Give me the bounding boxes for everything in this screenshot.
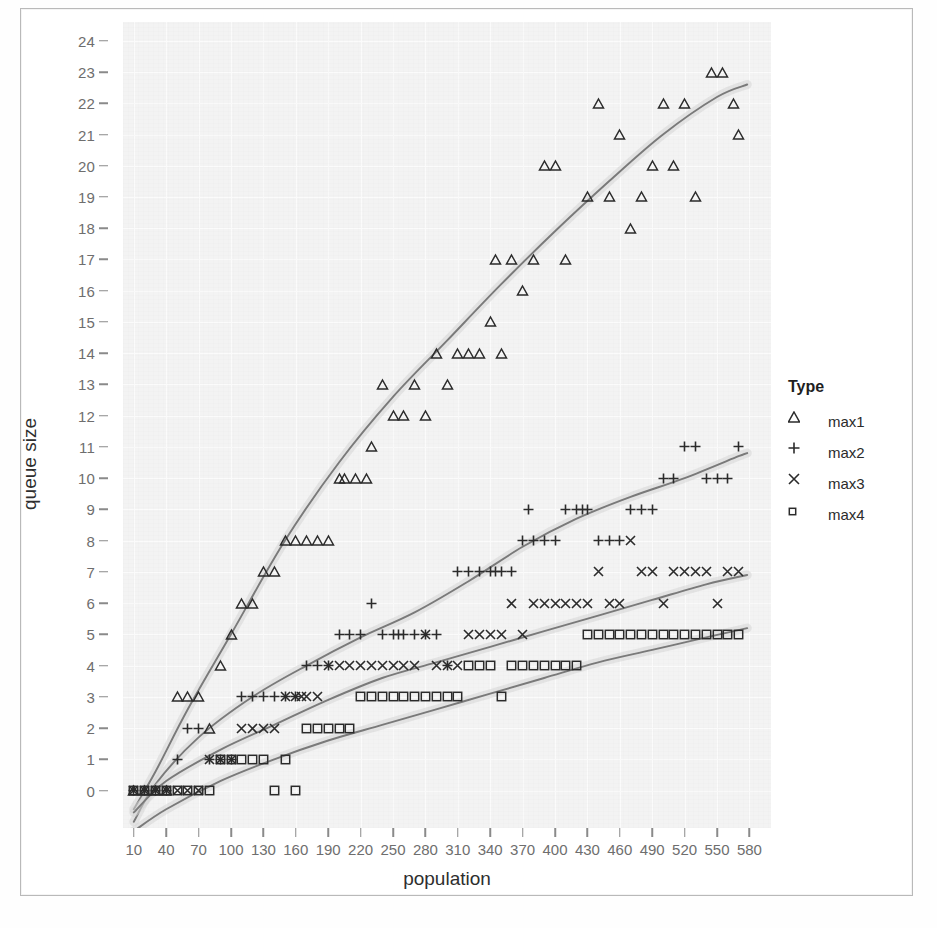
- x-tick-label: 490: [640, 841, 665, 858]
- y-tick-mark: [99, 290, 108, 292]
- y-tick-mark: [99, 134, 108, 136]
- x-tick-mark: [522, 828, 524, 837]
- y-tick-label: 14: [78, 345, 95, 362]
- y-tick-mark: [99, 727, 108, 729]
- x-tick-mark: [425, 828, 427, 837]
- legend-label: max1: [828, 413, 865, 430]
- x-tick-mark: [749, 828, 751, 837]
- y-tick-mark: [99, 477, 108, 479]
- x-tick-label: 40: [158, 841, 175, 858]
- legend-marker-plus-icon: [788, 440, 818, 466]
- x-tick-mark: [165, 828, 167, 837]
- x-tick-label: 250: [380, 841, 405, 858]
- y-tick-mark: [99, 102, 108, 104]
- legend-title: Type: [788, 378, 918, 396]
- x-tick-mark: [263, 828, 265, 837]
- legend-marker-square-icon: [788, 502, 818, 528]
- y-tick-label: 16: [78, 282, 95, 299]
- max1-trend-band: [134, 85, 747, 810]
- y-tick-label: 5: [86, 626, 95, 643]
- y-axis-title: queue size: [19, 418, 41, 510]
- x-tick-label: 160: [283, 841, 308, 858]
- legend-item-max2[interactable]: max2: [788, 437, 918, 468]
- y-tick-mark: [99, 196, 108, 198]
- y-tick-label: 1: [86, 751, 95, 768]
- y-tick-label: 12: [78, 407, 95, 424]
- x-tick-label: 430: [575, 841, 600, 858]
- x-tick-label: 70: [190, 841, 207, 858]
- x-tick-mark: [684, 828, 686, 837]
- x-tick-mark: [587, 828, 589, 837]
- chart-page: 0123456789101112131415161718192021222324…: [0, 0, 937, 928]
- y-tick-label: 13: [78, 376, 95, 393]
- y-tick-label: 4: [86, 657, 95, 674]
- y-tick-mark: [99, 165, 108, 167]
- y-tick-label: 17: [78, 251, 95, 268]
- plot-panel: [123, 22, 771, 828]
- x-tick-mark: [619, 828, 621, 837]
- legend-label: max2: [828, 444, 865, 461]
- y-tick-label: 24: [78, 32, 95, 49]
- y-tick-label: 23: [78, 64, 95, 81]
- x-tick-mark: [457, 828, 459, 837]
- legend-marker-cross-icon: [788, 471, 818, 497]
- y-tick-mark: [99, 415, 108, 417]
- x-tick-label: 100: [218, 841, 243, 858]
- x-tick-label: 460: [607, 841, 632, 858]
- y-tick-mark: [99, 227, 108, 229]
- y-tick-mark: [99, 321, 108, 323]
- x-tick-label: 10: [125, 841, 142, 858]
- x-tick-label: 280: [413, 841, 438, 858]
- legend-label: max4: [828, 506, 865, 523]
- y-tick-mark: [99, 259, 108, 261]
- x-tick-label: 190: [316, 841, 341, 858]
- y-tick-mark: [99, 696, 108, 698]
- x-tick-mark: [295, 828, 297, 837]
- y-tick-label: 7: [86, 563, 95, 580]
- y-tick-label: 10: [78, 470, 95, 487]
- y-tick-mark: [99, 40, 108, 42]
- y-tick-mark: [99, 665, 108, 667]
- y-tick-label: 11: [79, 438, 95, 455]
- x-tick-mark: [651, 828, 653, 837]
- x-axis: 1040701001301601902202502803103403704004…: [0, 828, 937, 928]
- y-tick-mark: [99, 352, 108, 354]
- x-tick-mark: [554, 828, 556, 837]
- y-tick-mark: [99, 446, 108, 448]
- x-tick-mark: [230, 828, 232, 837]
- x-tick-label: 220: [348, 841, 373, 858]
- y-tick-label: 15: [78, 313, 95, 330]
- trend-curves-layer: [123, 22, 771, 828]
- x-tick-label: 520: [672, 841, 697, 858]
- y-tick-label: 6: [86, 595, 95, 612]
- x-tick-mark: [360, 828, 362, 837]
- y-tick-label: 0: [86, 782, 95, 799]
- x-tick-mark: [133, 828, 135, 837]
- y-axis: 0123456789101112131415161718192021222324…: [0, 0, 123, 928]
- y-tick-mark: [99, 759, 108, 761]
- legend-items: max1max2max3max4: [788, 406, 918, 530]
- legend-label: max3: [828, 475, 865, 492]
- y-tick-label: 18: [78, 220, 95, 237]
- y-tick-mark: [99, 509, 108, 511]
- max1-trend: [134, 85, 747, 810]
- y-tick-mark: [99, 634, 108, 636]
- x-tick-label: 580: [737, 841, 762, 858]
- plot-area: 0123456789101112131415161718192021222324…: [0, 0, 937, 928]
- y-tick-label: 3: [86, 688, 95, 705]
- legend-item-max1[interactable]: max1: [788, 406, 918, 437]
- y-tick-mark: [99, 71, 108, 73]
- x-tick-mark: [198, 828, 200, 837]
- y-tick-mark: [99, 571, 108, 573]
- y-tick-label: 19: [78, 188, 95, 205]
- x-tick-mark: [716, 828, 718, 837]
- legend-item-max3[interactable]: max3: [788, 468, 918, 499]
- legend-item-max4[interactable]: max4: [788, 499, 918, 530]
- x-tick-mark: [489, 828, 491, 837]
- y-tick-mark: [99, 602, 108, 604]
- y-tick-label: 9: [86, 501, 95, 518]
- y-tick-mark: [99, 540, 108, 542]
- x-axis-title: population: [403, 868, 491, 890]
- y-tick-mark: [99, 790, 108, 792]
- y-tick-mark: [99, 384, 108, 386]
